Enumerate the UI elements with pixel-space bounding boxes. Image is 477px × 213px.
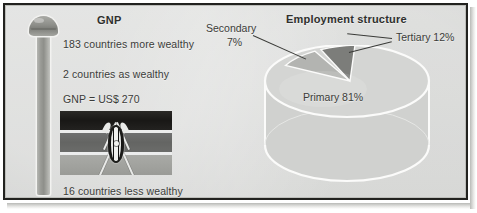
frame-drop-shadow-right: [470, 7, 476, 209]
label-secondary: Secondary: [206, 22, 256, 34]
shield-center-dot: [114, 141, 119, 146]
frame-drop-shadow-bottom: [7, 203, 474, 209]
label-primary: Primary 81%: [303, 91, 363, 103]
figure-frame: GNP 183 countries more wealthy 2 countri…: [3, 3, 468, 200]
pie-cylinder-svg: [263, 45, 431, 193]
employment-structure-title: Employment structure: [286, 13, 407, 25]
figure-screenshot: GNP 183 countries more wealthy 2 countri…: [0, 0, 477, 213]
maasai-shield-and-spears-icon: [60, 111, 172, 175]
label-tertiary: Tertiary 12%: [396, 31, 454, 43]
employment-pie-cylinder-chart: [263, 45, 431, 193]
gnp-title: GNP: [97, 14, 122, 26]
kenya-flag-image: [60, 111, 172, 175]
pillar-cap-highlight: [34, 18, 44, 23]
label-less-wealthy: 16 countries less wealthy: [63, 185, 183, 197]
label-secondary-value: 7%: [227, 36, 242, 48]
pillar-shaft: [37, 27, 50, 195]
label-as-wealthy: 2 countries as wealthy: [63, 68, 169, 80]
label-gnp-value: GNP = US$ 270: [63, 93, 140, 105]
label-more-wealthy: 183 countries more wealthy: [63, 38, 194, 50]
